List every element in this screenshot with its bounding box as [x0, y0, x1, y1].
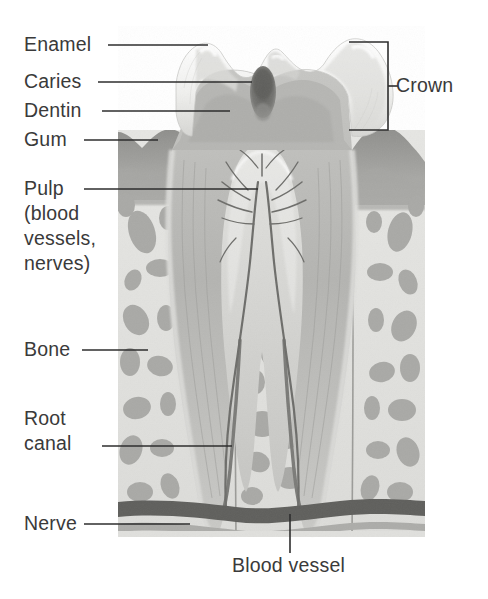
label-crown: Crown	[396, 73, 453, 98]
label-pulp-line-1: Pulp	[24, 176, 96, 201]
label-caries: Caries	[24, 69, 82, 94]
label-nerve: Nerve	[24, 511, 77, 536]
label-gum-text: Gum	[24, 128, 67, 150]
label-pulp: Pulp (blood vessels, nerves)	[24, 176, 96, 276]
scan-grain-overlay	[118, 26, 425, 537]
label-root-canal-line-2: canal	[24, 431, 72, 456]
label-dentin: Dentin	[24, 98, 82, 123]
label-pulp-line-3: vessels,	[24, 226, 96, 251]
label-blood-vessel: Blood vessel	[232, 553, 345, 578]
label-caries-text: Caries	[24, 70, 82, 92]
label-pulp-line-4: nerves)	[24, 251, 96, 276]
label-root-canal-line-1: Root	[24, 406, 72, 431]
label-bone: Bone	[24, 337, 70, 362]
label-crown-text: Crown	[396, 74, 453, 96]
label-nerve-text: Nerve	[24, 512, 77, 534]
label-blood-vessel-text: Blood vessel	[232, 554, 345, 576]
label-gum: Gum	[24, 127, 67, 152]
label-dentin-text: Dentin	[24, 99, 82, 121]
label-enamel-text: Enamel	[24, 33, 91, 55]
label-pulp-line-2: (blood	[24, 201, 96, 226]
label-bone-text: Bone	[24, 338, 70, 360]
label-root-canal: Root canal	[24, 406, 72, 456]
label-enamel: Enamel	[24, 32, 91, 57]
